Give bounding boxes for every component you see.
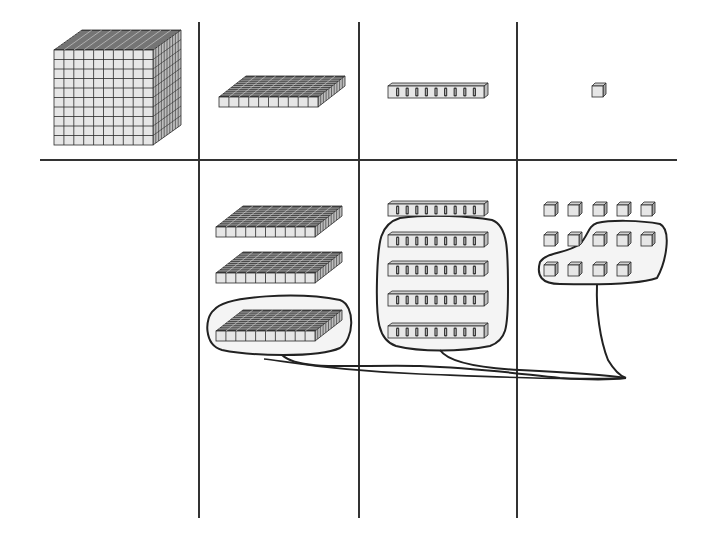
ten-rod (388, 261, 488, 276)
unit-cube (592, 83, 606, 97)
thousand-cube (54, 30, 181, 145)
block-side-face (579, 232, 582, 246)
ten-rod (388, 232, 488, 247)
unit-cube (617, 202, 631, 216)
unit-cube (593, 262, 607, 276)
unit-cube (593, 232, 607, 246)
block-front-face (544, 265, 555, 276)
unit-cube (568, 232, 582, 246)
block-side-face (579, 262, 582, 276)
unit-cube (641, 232, 655, 246)
block-side-face (484, 323, 488, 338)
ones-connector-line (597, 285, 626, 378)
block-front-face (568, 205, 579, 216)
unit-cube (593, 202, 607, 216)
unit-cube (544, 262, 558, 276)
block-top-face (388, 83, 488, 86)
block-side-face (484, 232, 488, 247)
block-side-face (579, 202, 582, 216)
block-side-face (628, 232, 631, 246)
block-side-face (484, 83, 488, 98)
block-side-face (484, 261, 488, 276)
block-front-face (544, 205, 555, 216)
hundred-flat (216, 206, 342, 237)
block-front-face (568, 235, 579, 246)
hundred-flat (219, 76, 345, 107)
block-top-face (388, 232, 488, 235)
unit-cube (617, 232, 631, 246)
ten-rod (388, 83, 488, 98)
block-side-face (652, 202, 655, 216)
block-side-face (555, 232, 558, 246)
block-front-face (593, 265, 604, 276)
block-front-face (593, 235, 604, 246)
block-side-face (652, 232, 655, 246)
unit-cube (641, 202, 655, 216)
unit-cube (617, 262, 631, 276)
block-front-face (617, 265, 628, 276)
block-side-face (628, 262, 631, 276)
unit-cube (568, 262, 582, 276)
tens-connector-line (440, 350, 626, 378)
block-side-face (604, 262, 607, 276)
block-side-face (484, 291, 488, 306)
block-front-face (641, 205, 652, 216)
block-top-face (388, 323, 488, 326)
block-side-face (603, 83, 606, 97)
diagram-canvas (0, 0, 704, 545)
ten-rod (388, 201, 488, 216)
hundred-flat (216, 252, 342, 283)
unit-cube (544, 232, 558, 246)
unit-cube (544, 202, 558, 216)
block-top-face (388, 261, 488, 264)
block-side-face (555, 262, 558, 276)
block-front-face (617, 205, 628, 216)
place-value-diagram (0, 0, 704, 545)
block-front-face (568, 265, 579, 276)
ten-rod (388, 291, 488, 306)
block-side-face (604, 202, 607, 216)
unit-cube (568, 202, 582, 216)
block-front-face (544, 235, 555, 246)
block-front-face (641, 235, 652, 246)
ten-rod (388, 323, 488, 338)
block-side-face (555, 202, 558, 216)
base-ten-blocks (54, 30, 655, 341)
block-front-face (592, 86, 603, 97)
block-top-face (388, 291, 488, 294)
block-front-face (617, 235, 628, 246)
block-side-face (484, 201, 488, 216)
block-side-face (604, 232, 607, 246)
block-front-face (593, 205, 604, 216)
block-side-face (628, 202, 631, 216)
block-top-face (388, 201, 488, 204)
hundreds-connector-return-line (264, 359, 626, 379)
